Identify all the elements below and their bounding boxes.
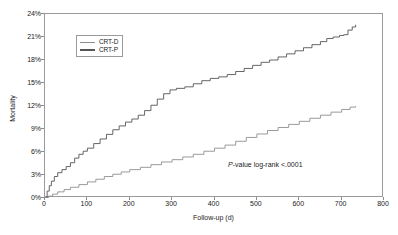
series-line-crt-d <box>45 106 356 198</box>
legend-label-crt-d: CRT-D <box>99 38 118 46</box>
x-axis-tick-label: 400 <box>208 200 220 207</box>
pvalue-text: -value log-rank <.0001 <box>233 161 303 168</box>
x-axis-tick-label: 500 <box>250 200 262 207</box>
x-axis-tick-mark <box>86 197 87 200</box>
legend-label-crt-p: CRT-P <box>99 46 118 54</box>
y-axis-tick-label: 6% <box>4 148 41 155</box>
legend-swatch-crt-p <box>80 49 95 50</box>
x-axis-tick-mark <box>214 197 215 200</box>
legend-item-crt-p: CRT-P <box>80 46 118 54</box>
x-axis-tick-labels: 0100200300400500600700800 <box>0 200 398 214</box>
kaplan-meier-mortality-chart: 0%3%6%9%12%15%18%21%24% Mortality 010020… <box>0 0 398 235</box>
x-axis-tick-mark <box>129 197 130 200</box>
x-axis-title: Follow-up (d) <box>44 214 383 221</box>
x-axis-tick-mark <box>171 197 172 200</box>
legend-item-crt-d: CRT-D <box>80 38 118 46</box>
x-axis-tick-mark <box>341 197 342 200</box>
x-axis-tick-label: 300 <box>165 200 177 207</box>
x-axis-tick-label: 0 <box>42 200 46 207</box>
y-axis-tick-label: 24% <box>4 10 41 17</box>
y-axis-tick-label: 18% <box>4 56 41 63</box>
x-axis-tick-mark <box>44 197 45 200</box>
x-axis-tick-label: 700 <box>335 200 347 207</box>
x-axis-tick-label: 600 <box>292 200 304 207</box>
chart-legend: CRT-D CRT-P <box>76 35 123 57</box>
y-axis-tick-label: 3% <box>4 171 41 178</box>
x-axis-tick-label: 800 <box>377 200 389 207</box>
legend-swatch-crt-d <box>80 42 95 43</box>
y-axis-tick-label: 21% <box>4 33 41 40</box>
log-rank-pvalue-annotation: P-value log-rank <.0001 <box>228 161 303 168</box>
x-axis-tick-label: 200 <box>123 200 135 207</box>
y-axis-title: Mortality <box>9 79 16 139</box>
x-axis-tick-mark <box>383 197 384 200</box>
x-axis-tick-mark <box>298 197 299 200</box>
x-axis-tick-mark <box>256 197 257 200</box>
x-axis-tick-label: 100 <box>81 200 93 207</box>
